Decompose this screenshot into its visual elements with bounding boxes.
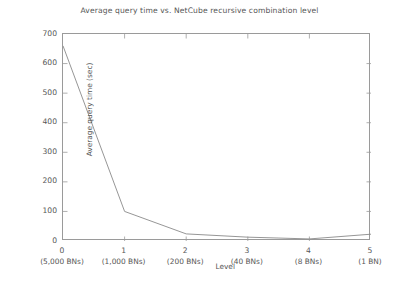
plot-svg	[63, 34, 371, 241]
y-tick-label: 100	[17, 206, 57, 215]
y-tick-label: 0	[17, 236, 57, 245]
y-tick-label: 200	[17, 176, 57, 185]
chart-title: Average query time vs. NetCube recursive…	[0, 6, 399, 15]
y-tick-label: 500	[17, 88, 57, 97]
plot-area: Average query time (sec)	[62, 33, 370, 240]
x-tick-label-group: 5(1 BN)	[328, 245, 399, 267]
chart-figure: Average query time vs. NetCube recursive…	[0, 0, 399, 287]
y-tick-label: 300	[17, 147, 57, 156]
top-axis-ticks	[125, 34, 310, 39]
data-series-line	[63, 46, 371, 239]
left-axis-ticks	[63, 64, 68, 212]
y-tick-label: 600	[17, 58, 57, 67]
x-axis-label: Level	[195, 262, 255, 271]
right-axis-ticks	[367, 64, 372, 212]
y-axis-label: Average query time (sec)	[85, 37, 94, 182]
x-tick-value: 5	[328, 245, 399, 256]
y-tick-label: 400	[17, 117, 57, 126]
y-tick-label: 700	[17, 29, 57, 38]
x-tick-sublabel: (1 BN)	[328, 256, 399, 267]
bottom-axis-ticks	[125, 237, 310, 242]
